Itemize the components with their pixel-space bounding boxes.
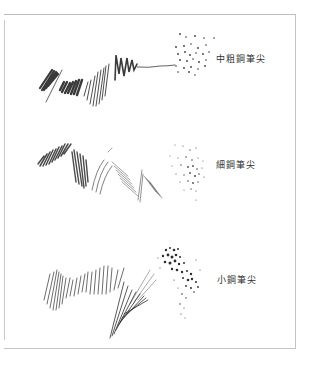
label-small-nib: 小鋼筆尖 [217,273,257,286]
fine-stroke-illustration [0,120,312,230]
sample-small-nib: 小鋼筆尖 [0,230,312,350]
label-fine-nib: 細鋼筆尖 [216,158,256,171]
label-medium-coarse-nib: 中粗鋼筆尖 [216,52,266,65]
sample-fine-nib: 細鋼筆尖 [0,120,312,230]
sample-medium-coarse-nib: 中粗鋼筆尖 [0,0,312,120]
small-stroke-illustration [0,230,312,350]
